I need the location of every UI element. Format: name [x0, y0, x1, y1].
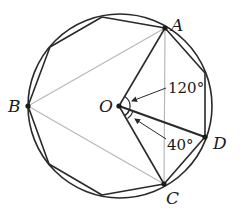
segment-bc	[28, 106, 164, 184]
segment-oc	[119, 106, 164, 184]
angle-label-120: 120°	[168, 79, 204, 97]
point-b	[25, 103, 30, 108]
angle-label-40: 40°	[167, 136, 194, 154]
point-d	[202, 134, 207, 139]
segment-oa	[119, 28, 165, 106]
label-b: B	[7, 96, 21, 116]
point-a	[162, 25, 167, 30]
label-a: A	[169, 15, 183, 35]
arrow-120	[132, 88, 166, 101]
segment-od	[119, 106, 205, 137]
label-d: D	[212, 133, 227, 153]
point-c	[161, 181, 166, 186]
point-o	[116, 103, 121, 108]
label-o: O	[99, 96, 113, 116]
geometry-diagram: A B C D O 120° 40°	[0, 0, 240, 209]
segment-ab	[28, 28, 165, 106]
segment-ac	[164, 28, 165, 184]
label-c: C	[166, 188, 179, 208]
